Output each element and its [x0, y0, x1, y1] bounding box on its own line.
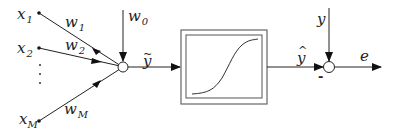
arrow-head-icon	[92, 48, 101, 55]
target-y-label: y	[316, 10, 326, 28]
weight-w2-label: w2	[65, 36, 85, 56]
input-x1-label: x1	[17, 5, 33, 25]
activation-block-inner	[186, 35, 262, 98]
arrow-head-icon	[92, 80, 101, 88]
comparator-node	[324, 62, 335, 73]
error-e-label: e	[360, 47, 369, 65]
input-x1-edge	[39, 13, 121, 66]
minus-sign: -	[318, 69, 323, 84]
svg-text:y: y	[142, 52, 152, 70]
bias-w0-label: w0	[128, 7, 149, 27]
sum-output-label: ~ y	[142, 48, 152, 70]
neuron-diagram: x1 x2 xM w1 w2 wM w0 ~ y	[0, 0, 395, 130]
summation-node	[118, 62, 128, 72]
ellipsis-dots	[39, 64, 41, 84]
activation-output-label: ^ y	[296, 44, 307, 67]
weight-w1-label: w1	[65, 13, 85, 33]
input-x2-label: x2	[17, 39, 33, 59]
sigmoid-activation-block	[181, 30, 267, 104]
arrow-head-icon	[91, 58, 102, 64]
svg-text:y: y	[296, 49, 306, 67]
weight-wM-label: wM	[64, 100, 89, 120]
input-xM-label: xM	[19, 110, 38, 130]
